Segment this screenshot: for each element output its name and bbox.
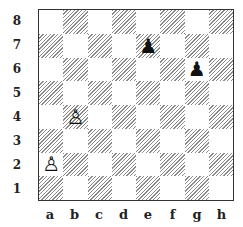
square-c3 xyxy=(88,129,112,153)
square-e2 xyxy=(136,153,160,177)
file-label: h xyxy=(210,207,234,222)
rank-label: 6 xyxy=(10,62,24,76)
square-e5 xyxy=(136,81,160,105)
file-label: b xyxy=(63,207,87,222)
square-d7 xyxy=(112,34,136,58)
square-f2 xyxy=(160,153,184,177)
square-b7 xyxy=(63,34,87,58)
square-a5 xyxy=(39,81,63,105)
square-h8 xyxy=(209,10,233,34)
file-label: g xyxy=(185,207,209,222)
chess-board: ♟♟♙♙ xyxy=(38,9,234,201)
square-a3 xyxy=(39,129,63,153)
square-g7 xyxy=(185,34,209,58)
black-pawn-icon: ♟ xyxy=(188,59,206,79)
square-a8 xyxy=(39,10,63,34)
file-label: a xyxy=(38,207,62,222)
square-a1 xyxy=(39,176,63,200)
square-a2: ♙ xyxy=(39,153,63,177)
square-d6 xyxy=(112,58,136,82)
rank-label: 1 xyxy=(10,182,24,196)
square-c7 xyxy=(88,34,112,58)
square-f1 xyxy=(160,176,184,200)
square-b5 xyxy=(63,81,87,105)
rank-label: 4 xyxy=(10,110,24,124)
square-f8 xyxy=(160,10,184,34)
square-b1 xyxy=(63,176,87,200)
square-h6 xyxy=(209,58,233,82)
square-g6: ♟ xyxy=(185,58,209,82)
square-f4 xyxy=(160,105,184,129)
square-d4 xyxy=(112,105,136,129)
square-a4 xyxy=(39,105,63,129)
square-h2 xyxy=(209,153,233,177)
square-d1 xyxy=(112,176,136,200)
square-e7: ♟ xyxy=(136,34,160,58)
square-e1 xyxy=(136,176,160,200)
square-f6 xyxy=(160,58,184,82)
rank-label: 2 xyxy=(10,158,24,172)
square-g2 xyxy=(185,153,209,177)
square-a7 xyxy=(39,34,63,58)
square-d2 xyxy=(112,153,136,177)
rank-label: 8 xyxy=(10,14,24,28)
rank-label: 7 xyxy=(10,38,24,52)
square-e3 xyxy=(136,129,160,153)
square-c2 xyxy=(88,153,112,177)
square-g8 xyxy=(185,10,209,34)
square-e6 xyxy=(136,58,160,82)
white-pawn-icon: ♙ xyxy=(42,154,60,174)
square-g1 xyxy=(185,176,209,200)
square-b6 xyxy=(63,58,87,82)
square-f5 xyxy=(160,81,184,105)
square-h3 xyxy=(209,129,233,153)
square-c5 xyxy=(88,81,112,105)
square-b3 xyxy=(63,129,87,153)
square-e4 xyxy=(136,105,160,129)
square-d5 xyxy=(112,81,136,105)
white-pawn-icon: ♙ xyxy=(66,107,84,127)
square-h1 xyxy=(209,176,233,200)
square-b2 xyxy=(63,153,87,177)
square-c1 xyxy=(88,176,112,200)
square-d3 xyxy=(112,129,136,153)
square-f7 xyxy=(160,34,184,58)
square-g5 xyxy=(185,81,209,105)
square-h7 xyxy=(209,34,233,58)
file-label: e xyxy=(136,207,160,222)
file-label: c xyxy=(87,207,111,222)
square-b4: ♙ xyxy=(63,105,87,129)
square-h4 xyxy=(209,105,233,129)
square-f3 xyxy=(160,129,184,153)
rank-label: 3 xyxy=(10,134,24,148)
square-g4 xyxy=(185,105,209,129)
square-c8 xyxy=(88,10,112,34)
square-a6 xyxy=(39,58,63,82)
square-c4 xyxy=(88,105,112,129)
square-b8 xyxy=(63,10,87,34)
square-e8 xyxy=(136,10,160,34)
file-label: d xyxy=(112,207,136,222)
file-label: f xyxy=(161,207,185,222)
rank-label: 5 xyxy=(10,86,24,100)
square-h5 xyxy=(209,81,233,105)
square-d8 xyxy=(112,10,136,34)
square-c6 xyxy=(88,58,112,82)
black-pawn-icon: ♟ xyxy=(139,36,157,56)
square-g3 xyxy=(185,129,209,153)
